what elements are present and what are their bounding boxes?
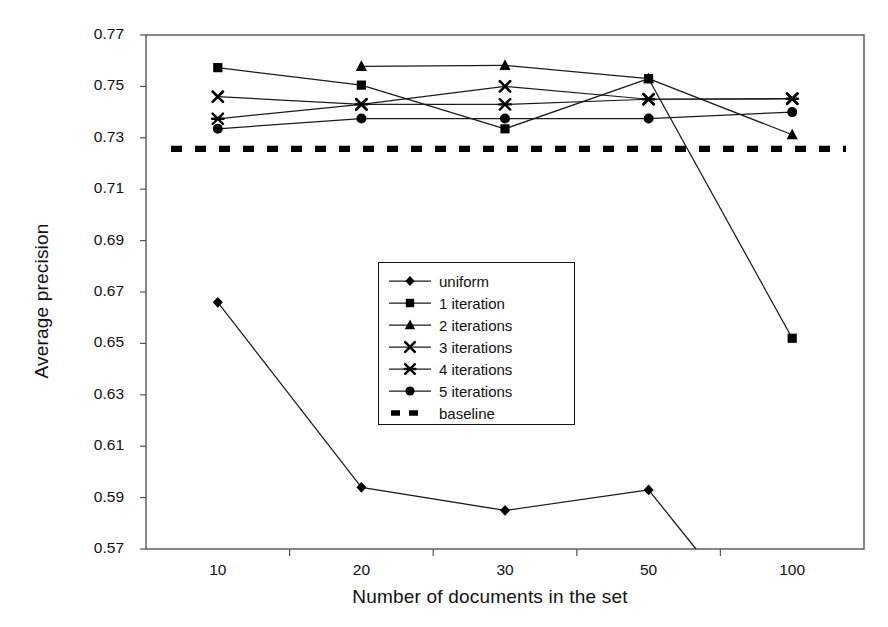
- legend-swatch-triangle-icon: [387, 316, 433, 334]
- series-line-segment: [649, 79, 793, 135]
- marker-triangle: [787, 129, 798, 140]
- marker-square: [406, 299, 414, 307]
- series-line-segment: [505, 65, 649, 78]
- series-line-segment: [218, 97, 362, 105]
- series-line-segment: [361, 85, 505, 129]
- y-tick-label: 0.61: [62, 436, 124, 454]
- marker-square: [500, 124, 509, 133]
- legend-item-label: baseline: [433, 405, 495, 422]
- series-line-segment: [361, 65, 505, 66]
- legend-item-5-iterations[interactable]: 5 iterations: [387, 380, 512, 402]
- legend-marker-icon: [387, 316, 433, 334]
- marker-square: [357, 81, 366, 90]
- chart-figure: Average precision Number of documents in…: [0, 0, 888, 627]
- legend-item-2-iterations[interactable]: 2 iterations: [387, 314, 512, 336]
- legend-marker-icon: [387, 404, 433, 422]
- legend-item-3-iterations[interactable]: 3 iterations: [387, 336, 512, 358]
- y-tick-label: 0.63: [62, 385, 124, 403]
- marker-circle: [644, 114, 654, 124]
- marker-square: [788, 334, 797, 343]
- legend-item-label: uniform: [433, 273, 489, 290]
- x-tick-label: 20: [331, 561, 391, 579]
- y-tick-label: 0.57: [62, 539, 124, 557]
- legend-item-label: 3 iterations: [433, 339, 512, 356]
- legend-swatch-square-icon: [387, 294, 433, 312]
- x-axis-title: Number of documents in the set: [140, 586, 840, 608]
- legend-item-label: 1 iteration: [433, 295, 505, 312]
- legend-swatch-cross-icon: [387, 338, 433, 356]
- marker-diamond: [500, 505, 510, 516]
- legend-marker-icon: [387, 294, 433, 312]
- x-tick-label: 10: [188, 561, 248, 579]
- x-tick-label: 50: [619, 561, 679, 579]
- y-tick-label: 0.73: [62, 128, 124, 146]
- series-line-segment: [218, 68, 362, 85]
- series-line-segment: [218, 302, 362, 487]
- marker-diamond: [405, 276, 414, 286]
- legend-swatch-circle-icon: [387, 382, 433, 400]
- legend-item-4-iterations[interactable]: 4 iterations: [387, 358, 512, 380]
- legend-item-label: 4 iterations: [433, 361, 512, 378]
- y-tick-label: 0.69: [62, 231, 124, 249]
- legend-marker-icon: [387, 338, 433, 356]
- y-tick-label: 0.75: [62, 76, 124, 94]
- series-line-segment: [505, 490, 649, 511]
- x-tick-label: 30: [475, 561, 535, 579]
- marker-circle: [500, 114, 510, 124]
- legend-item-baseline[interactable]: baseline: [387, 402, 495, 424]
- marker-circle: [213, 124, 223, 134]
- series-line-segment-clipped: [649, 490, 696, 549]
- legend-marker-icon: [387, 272, 433, 290]
- y-tick-label: 0.59: [62, 488, 124, 506]
- marker-triangle: [405, 319, 415, 329]
- legend-marker-icon: [387, 382, 433, 400]
- series-line-segment: [505, 86, 649, 99]
- marker-circle: [356, 114, 366, 124]
- y-tick-label: 0.67: [62, 282, 124, 300]
- marker-triangle: [356, 60, 367, 71]
- marker-square: [213, 63, 222, 72]
- legend-item-uniform[interactable]: uniform: [387, 270, 489, 292]
- series-line-segment: [218, 104, 362, 118]
- x-tick-label: 100: [762, 561, 822, 579]
- series-line-segment: [218, 119, 362, 129]
- legend-item-1-iteration[interactable]: 1 iteration: [387, 292, 505, 314]
- series-line-segment: [361, 487, 505, 510]
- y-tick-label: 0.77: [62, 25, 124, 43]
- series-line-segment: [649, 112, 793, 118]
- marker-circle: [787, 107, 797, 117]
- legend-item-label: 2 iterations: [433, 317, 512, 334]
- chart-legend: uniform1 iteration2 iterations3 iteratio…: [378, 262, 575, 425]
- legend-item-label: 5 iterations: [433, 383, 512, 400]
- marker-triangle: [499, 59, 510, 70]
- legend-swatch-asterisk-icon: [387, 360, 433, 378]
- y-axis-title: Average precision: [31, 171, 53, 431]
- legend-marker-icon: [387, 360, 433, 378]
- marker-circle: [405, 386, 414, 395]
- series-line-segment: [649, 99, 793, 100]
- legend-swatch-diamond-icon: [387, 272, 433, 290]
- y-tick-label: 0.65: [62, 333, 124, 351]
- y-tick-label: 0.71: [62, 179, 124, 197]
- legend-swatch-dashed-icon: [387, 404, 433, 422]
- series-line-segment: [361, 86, 505, 104]
